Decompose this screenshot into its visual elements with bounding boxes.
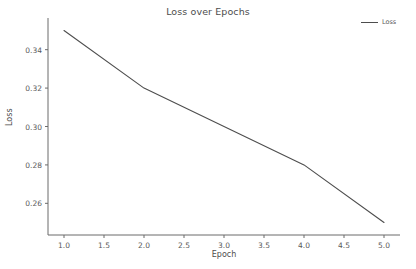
data-series-group xyxy=(64,30,384,222)
x-tick-label: 2.0 xyxy=(138,241,150,250)
y-tick-label: 0.32 xyxy=(25,84,42,93)
x-axis-tick-labels: 1.01.52.02.53.03.54.04.55.0 xyxy=(48,237,400,251)
y-axis-label: Loss xyxy=(5,108,14,126)
x-axis-label: Epoch xyxy=(48,250,400,259)
y-tick-label: 0.26 xyxy=(25,199,42,208)
x-tick-label: 4.5 xyxy=(338,241,350,250)
chart-figure: Loss over Epochs 0.260.280.300.320.34 1.… xyxy=(0,0,416,269)
series-line-loss xyxy=(64,30,384,222)
x-tick-label: 1.0 xyxy=(58,241,70,250)
plot-svg xyxy=(48,18,400,235)
y-tick-label: 0.34 xyxy=(25,45,42,54)
chart-legend: Loss xyxy=(361,18,396,26)
y-tick-label: 0.28 xyxy=(25,160,42,169)
chart-title: Loss over Epochs xyxy=(0,6,416,17)
x-tick-label: 3.5 xyxy=(258,241,270,250)
legend-label: Loss xyxy=(382,18,396,26)
plot-area xyxy=(48,18,400,235)
x-tick-label: 4.0 xyxy=(298,241,310,250)
y-axis-tick-labels: 0.260.280.300.320.34 xyxy=(16,18,42,235)
y-tick-label: 0.30 xyxy=(25,122,42,131)
x-tick-label: 2.5 xyxy=(178,241,190,250)
x-tick-label: 1.5 xyxy=(98,241,110,250)
x-tick-label: 3.0 xyxy=(218,241,230,250)
x-tick-label: 5.0 xyxy=(378,241,390,250)
legend-line-swatch xyxy=(361,22,378,23)
